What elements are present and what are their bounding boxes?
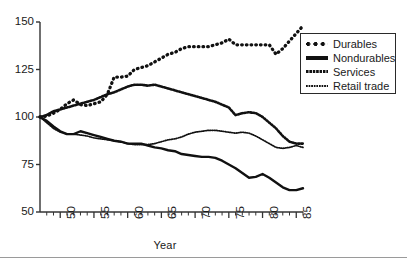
legend-item-retail-trade[interactable]: Retail trade xyxy=(306,79,395,93)
legend-swatch-nondurables-icon xyxy=(306,54,328,63)
x-axis-tick-label: 75 xyxy=(234,206,246,219)
x-axis-tick-label: 80 xyxy=(268,206,280,219)
chart-legend: Durables Nondurables Services Retail tra… xyxy=(300,33,396,94)
y-axis-tick-label: 100 xyxy=(4,110,34,122)
series-line-nondurables xyxy=(40,117,303,190)
legend-label-services: Services xyxy=(333,65,375,79)
legend-swatch-services-icon xyxy=(306,68,328,77)
y-axis-tick-label: 75 xyxy=(4,158,34,170)
legend-item-nondurables[interactable]: Nondurables xyxy=(306,51,395,65)
x-axis-tick-label: 65 xyxy=(166,206,178,219)
legend-label-retail-trade: Retail trade xyxy=(333,79,389,93)
x-axis-title: Year xyxy=(0,239,330,251)
legend-item-durables[interactable]: Durables xyxy=(306,37,395,51)
x-axis-tick-label: 85 xyxy=(301,206,313,219)
y-axis-tick-label: 150 xyxy=(4,15,34,27)
chart-figure: Year Durables Nondurables Services Retai… xyxy=(0,0,407,268)
y-axis-tick-label: 125 xyxy=(4,63,34,75)
x-axis-tick-label: 60 xyxy=(133,206,145,219)
x-axis-tick-label: 70 xyxy=(200,206,212,219)
legend-label-nondurables: Nondurables xyxy=(333,51,395,65)
y-axis-tick-label: 50 xyxy=(4,205,34,217)
legend-label-durables: Durables xyxy=(333,37,377,51)
legend-item-services[interactable]: Services xyxy=(306,65,395,79)
legend-swatch-durables-icon xyxy=(306,40,328,49)
legend-swatch-retail-trade-icon xyxy=(306,82,328,91)
x-axis-tick-label: 55 xyxy=(99,206,111,219)
x-axis-tick-label: 50 xyxy=(65,206,77,219)
figure-bottom-rule xyxy=(0,257,407,258)
